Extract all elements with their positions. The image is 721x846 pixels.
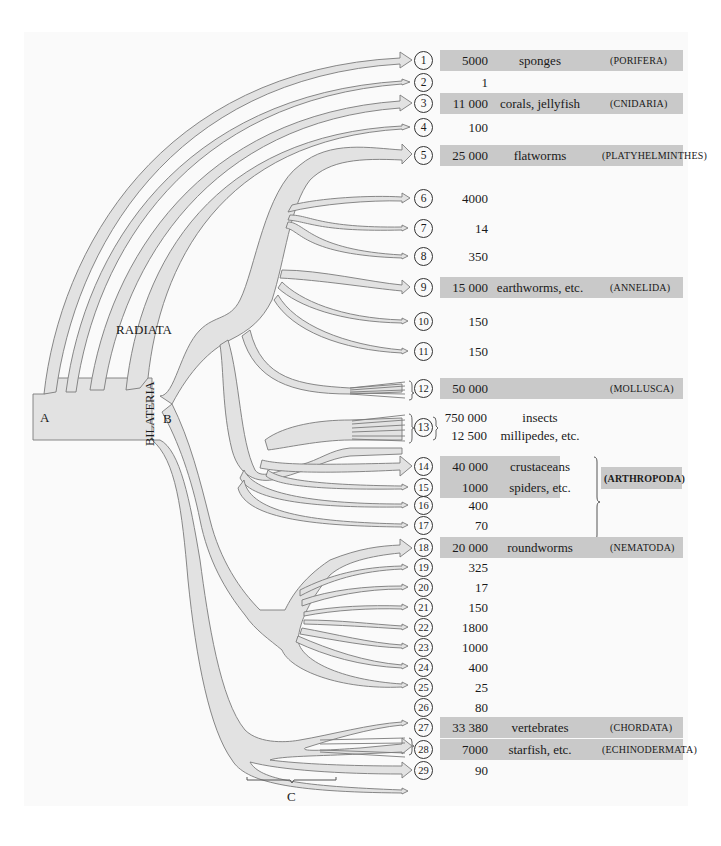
phylum-name: (ANNELIDA) [610, 277, 670, 298]
node-label-c: C [287, 789, 296, 805]
species-count: 4000 [430, 188, 488, 209]
species-count-2: 12 500 [437, 425, 487, 446]
phylum-name: (CHORDATA) [610, 717, 672, 738]
species-count: 400 [430, 657, 488, 678]
species-count: 5000 [430, 50, 488, 71]
phylum-name: (ECHINODERMATA) [602, 739, 697, 760]
species-count: 80 [430, 697, 488, 718]
arthro-upper [265, 418, 402, 450]
phylum-name: (CNIDARIA) [610, 93, 668, 114]
common-name: flatworms [490, 145, 590, 166]
species-count: 150 [430, 341, 488, 362]
species-count: 15 000 [430, 277, 488, 298]
species-count: 25 [430, 677, 488, 698]
branch-12 [242, 330, 402, 394]
common-name: vertebrates [490, 717, 590, 738]
common-name: corals, jellyfish [490, 93, 590, 114]
species-count: 350 [430, 246, 488, 267]
common-name: sponges [490, 50, 590, 71]
species-count: 14 [430, 218, 488, 239]
common-name: starfish, etc. [490, 739, 590, 760]
species-count: 325 [430, 557, 488, 578]
phylum-name: (PLATYHELMINTHES) [602, 145, 707, 166]
common-name: spiders, etc. [490, 477, 590, 498]
species-count: 11 000 [430, 93, 488, 114]
species-count: 17 [430, 577, 488, 598]
phylum-name: (NEMATODA) [610, 537, 675, 558]
species-count: 1 [430, 72, 488, 93]
species-count: 150 [430, 597, 488, 618]
species-count: 33 380 [430, 717, 488, 738]
common-name-2: millipedes, etc. [490, 425, 590, 446]
row-number-circle: 13 [414, 418, 433, 437]
species-count: 100 [430, 117, 488, 138]
node-label-b: B [163, 411, 172, 427]
species-count: 25 000 [430, 145, 488, 166]
species-count: 90 [430, 760, 488, 781]
radiata-label: RADIATA [116, 322, 172, 338]
arthropoda-bracket [594, 457, 600, 540]
common-name: earthworms, etc. [490, 277, 590, 298]
species-count: 1000 [430, 637, 488, 658]
common-name: crustaceans [490, 456, 590, 477]
bilateria-label: BILATERIA [143, 381, 158, 446]
species-count: 1800 [430, 617, 488, 638]
common-name: roundworms [490, 537, 590, 558]
phylum-name: (MOLLUSCA) [610, 378, 674, 399]
node-label-a: A [40, 410, 49, 426]
species-count: 50 000 [430, 378, 488, 399]
species-count: 70 [430, 515, 488, 536]
species-count: 20 000 [430, 537, 488, 558]
species-count: 150 [430, 311, 488, 332]
species-count: 400 [430, 495, 488, 516]
species-count: 7000 [430, 739, 488, 760]
species-count: 40 000 [430, 456, 488, 477]
arthropoda-label: (ARTHROPODA) [604, 468, 685, 489]
phylum-name: (PORIFERA) [610, 50, 667, 71]
